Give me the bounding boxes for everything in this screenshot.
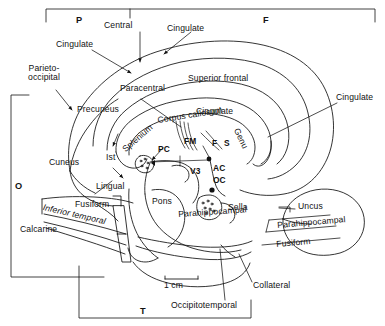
brain-anatomy-figure: P F O T Central Cingulate Cingulate Cing…	[0, 0, 385, 326]
label-s-septum: S	[224, 139, 230, 148]
bracket-label-temporal: T	[140, 307, 146, 317]
label-v3-third-ventricle: V3	[190, 167, 200, 176]
thalamic-mass-intermedia	[172, 165, 189, 182]
label-lingual-gyrus: Lingual	[96, 182, 124, 191]
label-calcarine-sulcus: Calcarine	[20, 225, 57, 234]
brainstem-strip	[113, 206, 131, 262]
label-isthmus: Ist	[106, 153, 115, 162]
label-parieto-occipital-sulcus: Parieto- occipital	[18, 64, 70, 81]
ac-dot	[207, 157, 212, 162]
scale-bar	[165, 276, 198, 279]
label-oc-optic-chiasm: OC	[213, 176, 226, 185]
label-precuneus: Precuneus	[77, 105, 119, 114]
bracket-label-parietal: P	[76, 16, 82, 26]
bracket-label-frontal: F	[263, 16, 269, 26]
label-pc-posterior-commissure: PC	[158, 145, 170, 154]
label-ac-anterior-commissure: AC	[213, 164, 225, 173]
label-fm-foramen-of-monro: FM	[184, 137, 196, 146]
bracket-label-occipital: O	[15, 182, 22, 192]
label-paracentral-gyrus: Paracentral	[120, 84, 165, 93]
brainstem-strip-notch	[113, 196, 121, 206]
splenium-contour	[116, 152, 147, 168]
label-cingulate-sulcus-left: Cingulate	[56, 40, 93, 49]
label-occipitotemporal-sulcus: Occipitotemporal	[171, 301, 237, 310]
genu-contour	[253, 141, 271, 166]
label-cingulate-sulcus-right: Cingulate	[336, 93, 373, 102]
label-superior-frontal-gyrus: Superior frontal	[188, 74, 248, 83]
inset-label-uncus: Uncus	[298, 202, 323, 211]
parahippocampal-upper	[138, 237, 252, 247]
cuneus-lower	[70, 171, 95, 193]
scale-bar-label: 1 cm	[164, 281, 183, 290]
label-fusiform-gyrus: Fusiform	[75, 200, 109, 209]
label-collateral-sulcus: Collateral	[253, 281, 290, 290]
label-pons: Pons	[152, 197, 172, 206]
temporal-inferior-edge	[133, 262, 250, 287]
cerebral-outline	[69, 41, 334, 195]
label-cuneus: Cuneus	[49, 158, 79, 167]
callosal-sulcus-outer	[107, 81, 289, 164]
oc-dot	[209, 187, 214, 192]
label-parieto-occipital-line2: occipital	[28, 72, 60, 82]
label-central-sulcus: Central	[104, 21, 132, 30]
bracket-bottom-T	[79, 266, 251, 318]
label-f-fornix: F	[212, 139, 217, 148]
label-sella: Sella	[228, 203, 248, 212]
label-cingulate-sulcus-top: Cingulate	[167, 24, 204, 33]
bracket-top-PF	[46, 9, 375, 22]
bracket-left-O	[11, 95, 104, 277]
